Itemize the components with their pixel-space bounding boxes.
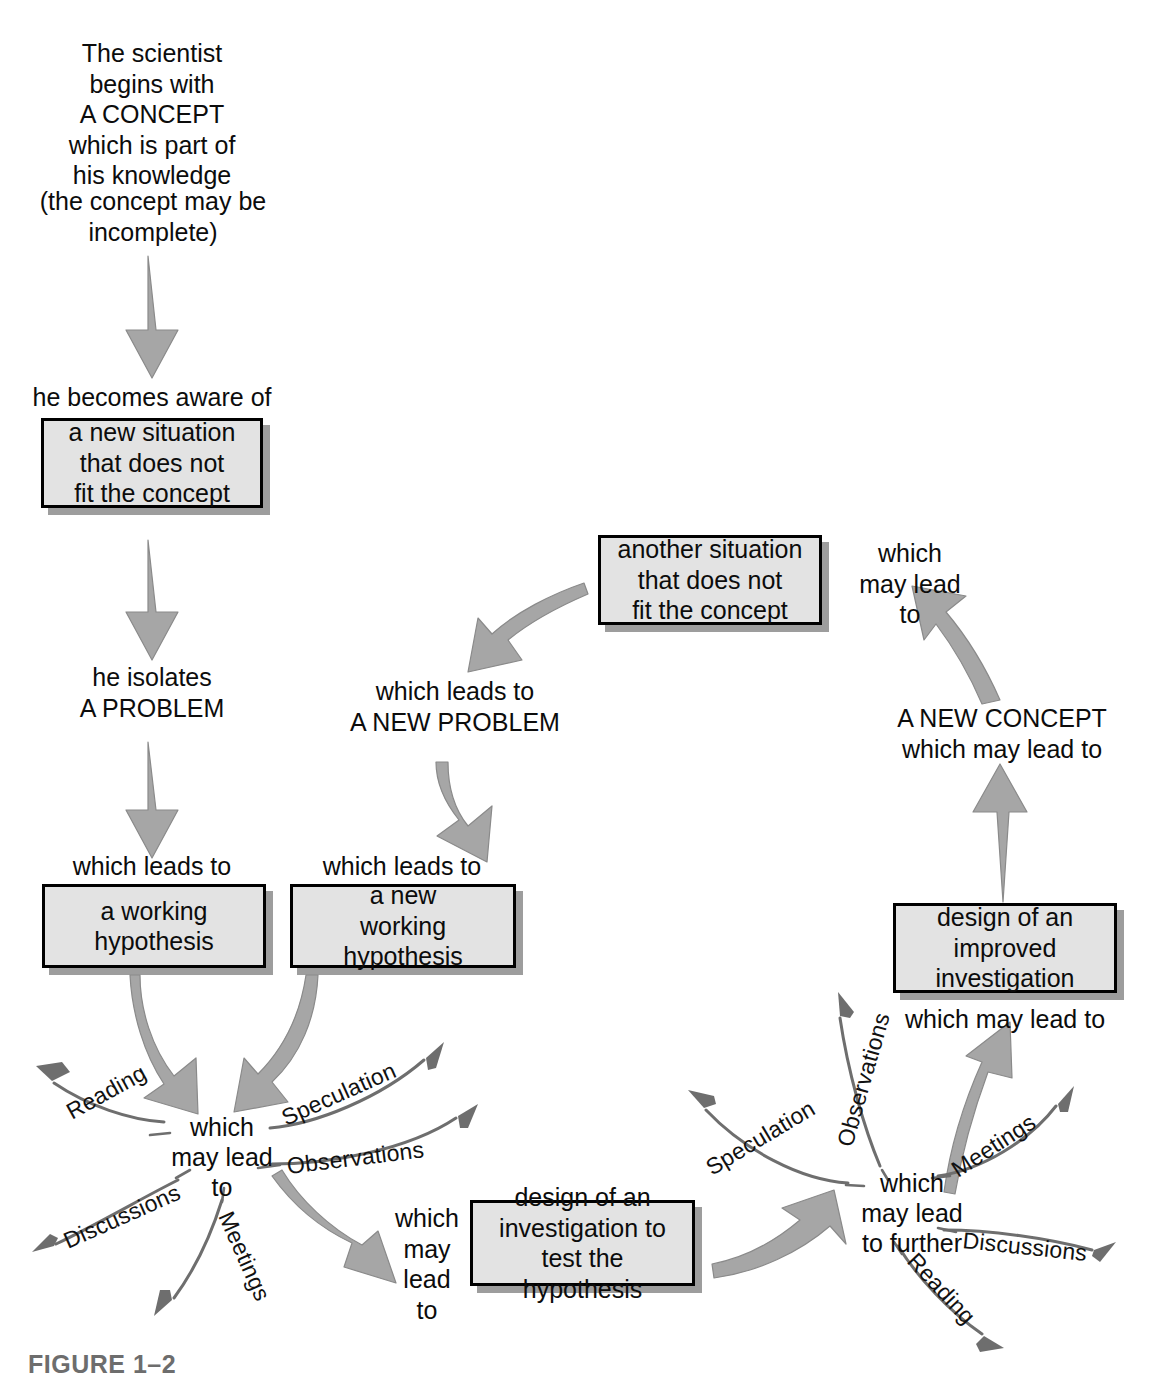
start-concept-text: The scientist begins with A CONCEPT whic… [22, 38, 282, 191]
spoke-arrowhead-left-reading [36, 1062, 70, 1081]
new-concept-label: A NEW CONCEPT which may lead to [872, 703, 1132, 764]
spoke-label-right-reading: Reading [902, 1248, 980, 1329]
box-another-situation: another situation that does not fit the … [598, 535, 822, 625]
spoke-line-right-reading [898, 1246, 982, 1334]
box-working-hypothesis: a working hypothesis [42, 884, 266, 968]
spoke-label-right-speculation: Speculation [701, 1095, 819, 1180]
spoke-line-left-reading [54, 1083, 164, 1122]
isolates-problem-label: he isolates A PROBLEM [22, 662, 282, 723]
spoke-arrowhead-left-meetings [154, 1290, 172, 1316]
arrow-newhypothesis-to-lefthub [234, 975, 318, 1112]
which-leads-to-new-problem-label: which leads to A NEW PROBLEM [330, 676, 580, 737]
arrow-hypothesis-to-lefthub [130, 975, 198, 1114]
spoke-label-left-discussions: Discussions [59, 1179, 184, 1254]
spoke-label-left-speculation: Speculation [277, 1057, 399, 1131]
which-leads-to-label-1: which leads to [32, 851, 272, 882]
spoke-label-left-meetings: Meetings [213, 1207, 275, 1304]
spoke-line-right-speculation [706, 1110, 848, 1183]
spoke-line-left-observations [272, 1118, 456, 1164]
spoke-label-left-observations: Observations [285, 1136, 425, 1179]
spoke-arrowhead-right-discussions [1092, 1242, 1116, 1262]
arrow-newproblem-to-newhypothesis [436, 762, 492, 862]
arrow-investigation-to-righthub [712, 1190, 846, 1278]
arrow-improved-to-newconcept [973, 764, 1027, 902]
hub-left-text: which may lead to [170, 1112, 274, 1202]
spoke-arrowhead-left-observations [458, 1104, 478, 1128]
spoke-arrowhead-right-meetings [1058, 1086, 1074, 1112]
spoke-arrowhead-right-reading [976, 1336, 1004, 1352]
concept-incomplete-note: (the concept may be incomplete) [14, 186, 292, 247]
spoke-line-right-observations [840, 1018, 880, 1166]
box-investigation: design of an investigation to test the h… [470, 1200, 695, 1286]
arrow-concept-to-aware [126, 256, 178, 378]
which-leads-to-label-2: which leads to [282, 851, 522, 882]
spoke-arrowhead-right-observations [838, 992, 854, 1018]
which-may-lead-to-top-right-label: which may lead to [836, 538, 984, 630]
arrow-lefthub-to-investigation [272, 1170, 396, 1283]
spoke-line-right-meetings [938, 1106, 1056, 1176]
spoke-line-left-meetings [174, 1200, 222, 1298]
which-may-lead-to-investigation-label: which may lead to [383, 1203, 471, 1325]
which-may-lead-to-under-improved-label: which may lead to [885, 1004, 1125, 1035]
spoke-stub-left-reading [150, 1133, 170, 1135]
becomes-aware-label: he becomes aware of [18, 382, 286, 413]
figure-caption: FIGURE 1–2 [28, 1350, 176, 1379]
spoke-arrowhead-left-speculation [426, 1042, 444, 1070]
box-new-working-hypothesis: a new working hypothesis [290, 884, 516, 968]
hub-right-text: which may lead to further [842, 1168, 982, 1258]
figure-canvas: Reading Speculation Observations Discuss… [0, 0, 1156, 1391]
spoke-line-left-discussions [56, 1180, 178, 1244]
box-new-situation: a new situation that does not fit the co… [41, 418, 263, 508]
box-improved-investigation: design of an improved investigation [893, 903, 1117, 993]
arrow-anothersituation-to-newproblem [468, 583, 588, 672]
spoke-line-left-speculation [270, 1060, 424, 1128]
arrow-problem-to-hypothesis [126, 742, 178, 858]
spoke-arrowhead-left-discussions [32, 1234, 58, 1252]
arrow-situation-to-problem [126, 540, 178, 660]
spoke-label-left-reading: Reading [62, 1059, 151, 1124]
spoke-arrowhead-right-speculation [688, 1090, 716, 1108]
